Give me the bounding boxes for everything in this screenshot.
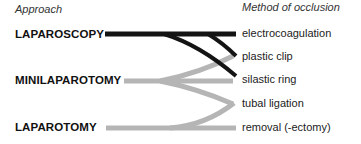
link-mini-tubal <box>160 81 233 104</box>
link-laparoscopy-clip <box>208 34 236 56</box>
link-laparotomy-tubal <box>170 103 234 128</box>
link-mini-clip <box>160 56 233 81</box>
flow-lines <box>0 0 361 144</box>
